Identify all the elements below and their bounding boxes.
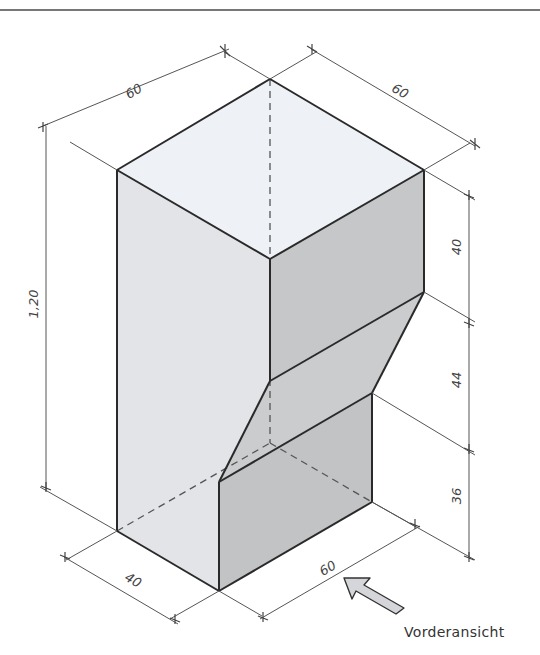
dim-upper-height: 40 <box>449 239 464 256</box>
dim-transition-height: 44 <box>449 372 464 389</box>
front-view-arrow-icon <box>344 578 404 614</box>
dim-bottom-left-width: 40 <box>122 569 144 590</box>
dim-top-left-width: 60 <box>123 80 145 101</box>
dim-lower-height: 36 <box>449 488 464 505</box>
dim-top-right-depth: 60 <box>389 80 411 101</box>
isometric-drawing: 60 60 1,20 40 44 36 40 60 <box>0 0 540 655</box>
dim-total-height: 1,20 <box>26 290 41 319</box>
view-caption: Vorderansicht <box>404 624 504 640</box>
